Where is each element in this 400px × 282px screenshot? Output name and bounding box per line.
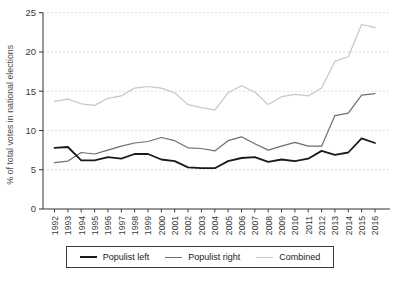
- x-tick-label-2013: 2013: [330, 216, 340, 235]
- x-tick-label-1995: 1995: [90, 216, 100, 235]
- chart-legend: Populist left Populist right Combined: [0, 246, 400, 268]
- legend-item-combined: Combined: [256, 252, 320, 262]
- y-tick-label-0: 0: [31, 203, 36, 214]
- x-tick-label-2005: 2005: [224, 216, 234, 235]
- legend-line-sample-combined: [256, 257, 273, 258]
- x-tick-label-2003: 2003: [197, 216, 207, 235]
- legend-box: Populist left Populist right Combined: [66, 246, 335, 268]
- x-tick-label-2011: 2011: [304, 216, 314, 235]
- x-tick-label-2014: 2014: [344, 216, 354, 235]
- x-tick-label-2006: 2006: [237, 216, 247, 235]
- legend-label-populist-left: Populist left: [103, 252, 150, 262]
- x-tick-label-2007: 2007: [250, 216, 260, 235]
- x-tick-label-2004: 2004: [210, 216, 220, 235]
- x-tick-label-2016: 2016: [370, 216, 380, 235]
- legend-label-populist-right: Populist right: [188, 252, 240, 262]
- x-tick-label-2001: 2001: [170, 216, 180, 235]
- series-line-populist-left: [55, 138, 376, 168]
- legend-line-sample-populist-right: [165, 257, 182, 258]
- legend-label-combined: Combined: [279, 252, 320, 262]
- x-tick-label-1999: 1999: [143, 216, 153, 235]
- populism-vote-share-figure: 0510152025199219931994199519961997199819…: [0, 0, 400, 282]
- legend-line-sample-populist-left: [80, 256, 97, 258]
- x-tick-label-1994: 1994: [77, 216, 87, 235]
- y-tick-label-20: 20: [25, 46, 36, 57]
- x-tick-label-1993: 1993: [63, 216, 73, 235]
- y-tick-label-5: 5: [31, 164, 36, 175]
- line-chart-canvas: 0510152025199219931994199519961997199819…: [0, 0, 400, 242]
- y-tick-label-25: 25: [25, 7, 36, 18]
- x-tick-label-2002: 2002: [183, 216, 193, 235]
- x-tick-label-1998: 1998: [130, 216, 140, 235]
- x-tick-label-1996: 1996: [103, 216, 113, 235]
- x-tick-label-2000: 2000: [157, 216, 167, 235]
- y-tick-label-10: 10: [25, 125, 36, 136]
- legend-item-populist-left: Populist left: [80, 252, 150, 262]
- y-tick-label-15: 15: [25, 86, 36, 97]
- y-axis-title: % of total votes in national elections: [5, 44, 15, 184]
- x-tick-label-2009: 2009: [277, 216, 287, 235]
- x-tick-label-2010: 2010: [290, 216, 300, 235]
- x-tick-label-2008: 2008: [264, 216, 274, 235]
- x-tick-label-2015: 2015: [357, 216, 367, 235]
- x-tick-label-1997: 1997: [117, 216, 127, 235]
- x-tick-label-1992: 1992: [50, 216, 60, 235]
- x-tick-label-2012: 2012: [317, 216, 327, 235]
- legend-item-populist-right: Populist right: [165, 252, 240, 262]
- series-line-combined: [55, 25, 376, 111]
